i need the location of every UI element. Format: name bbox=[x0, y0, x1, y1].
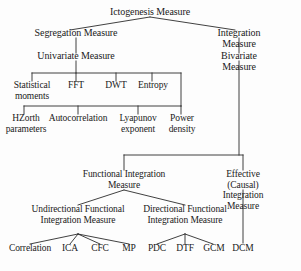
node-ictogenesis-measure: Ictogenesis Measure bbox=[110, 7, 190, 18]
node-entropy: Entropy bbox=[138, 80, 168, 91]
node-cfc: CFC bbox=[91, 243, 109, 254]
node-mp: MP bbox=[122, 243, 136, 254]
node-pdc: PDC bbox=[148, 243, 166, 254]
ictogenesis-measure-tree-diagram: Ictogenesis Measure Segregation Measure … bbox=[0, 0, 301, 271]
node-bivariate-measure: Bivariate Measure bbox=[208, 51, 270, 72]
node-dwt: DWT bbox=[105, 80, 126, 91]
node-ica: ICA bbox=[62, 243, 78, 254]
node-autocorrelation: Autocorrelation bbox=[49, 113, 108, 124]
node-dtf: DTF bbox=[176, 243, 194, 254]
node-functional-integration-measure: Functional Integration Measure bbox=[83, 169, 166, 190]
node-lyapunov-exponent: Lyapunov exponent bbox=[119, 113, 156, 134]
node-dcm: DCM bbox=[232, 243, 253, 254]
node-fft: FFT bbox=[68, 80, 84, 91]
node-gcm: GCM bbox=[203, 243, 224, 254]
node-correlation: Correlation bbox=[9, 243, 51, 254]
node-statistical-moments: Statistical moments bbox=[14, 80, 50, 101]
edge-functional-to-undirectional bbox=[78, 190, 124, 205]
edge-functional-to-directional bbox=[124, 190, 185, 205]
node-segregation-measure: Segregation Measure bbox=[35, 28, 118, 39]
node-power-density: Power density bbox=[169, 113, 196, 134]
node-hzorth-parameters: HZorth parameters bbox=[6, 113, 47, 134]
node-undirectional-functional-integration-measure: Undirectional Functional Integration Mea… bbox=[32, 204, 125, 225]
node-univariate-measure: Univariate Measure bbox=[37, 51, 114, 62]
node-directional-functional-integration-measure: Directional Functional Integration Measu… bbox=[143, 204, 227, 225]
node-integration-measure: Integration Measure bbox=[208, 28, 270, 49]
